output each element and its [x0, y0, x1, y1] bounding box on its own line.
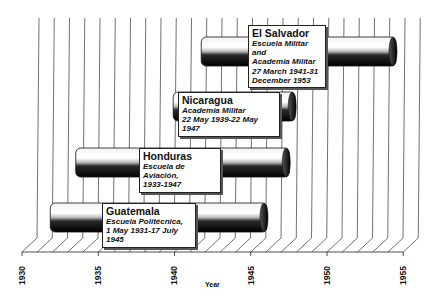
floor-line [373, 238, 388, 252]
label-title: Honduras [143, 150, 217, 162]
floor-line [53, 238, 68, 252]
axis-ticks [22, 252, 403, 256]
floor-line [236, 238, 251, 252]
tick-label-1935: 1935 [93, 266, 103, 285]
floor-line [37, 238, 52, 252]
label-honduras: Honduras Escuela de Aviación, 1933-1947 [139, 148, 221, 193]
floor-line [312, 238, 327, 252]
floor-line [342, 238, 357, 252]
tick-label-1930: 1930 [17, 266, 27, 285]
label-line: Academia Militar [182, 106, 276, 115]
gridline [403, 18, 405, 238]
tick-label-1940: 1940 [169, 266, 179, 285]
floor-line [22, 238, 37, 252]
tick-label-1955: 1955 [398, 266, 408, 285]
label-line: 1933-1947 [143, 180, 217, 189]
floor-hatch [22, 238, 418, 252]
floor-line [358, 238, 373, 252]
label-el-salvador: El Salvador Escuela Militar and Academia… [248, 25, 326, 88]
floor-line [220, 238, 235, 252]
floor-line [266, 238, 281, 252]
label-line: 1 May 1931-17 July 1945 [106, 226, 192, 244]
floor-line [281, 238, 296, 252]
tick-label-1950: 1950 [322, 266, 332, 285]
tick-label-1945: 1945 [246, 266, 256, 285]
label-nicaragua: Nicaragua Academia Militar 22 May 1939-2… [178, 92, 280, 137]
label-line: 27 March 1941-31 [252, 67, 322, 76]
label-title: Guatemala [106, 205, 192, 217]
label-line: Escuela de Aviación, [143, 162, 217, 180]
x-axis-title: Year [205, 281, 220, 288]
floor-line [403, 238, 418, 252]
label-line: Escuela Militar and [252, 39, 322, 57]
floor-line [388, 238, 403, 252]
floor-line [297, 238, 312, 252]
label-line: Academia Militar [252, 57, 322, 66]
label-line: Escuela Politécnica, [106, 217, 192, 226]
label-line: 22 May 1939-22 May 1947 [182, 115, 276, 133]
floor-line [327, 238, 342, 252]
floor-line [83, 238, 98, 252]
gridline [418, 18, 420, 238]
label-title: Nicaragua [182, 94, 276, 106]
floor-line [251, 238, 266, 252]
floor-line [205, 238, 220, 252]
label-title: El Salvador [252, 27, 322, 39]
label-line: December 1953 [252, 76, 322, 85]
gridline [37, 18, 39, 238]
label-guatemala: Guatemala Escuela Politécnica, 1 May 193… [102, 203, 196, 248]
floor-line [68, 238, 83, 252]
